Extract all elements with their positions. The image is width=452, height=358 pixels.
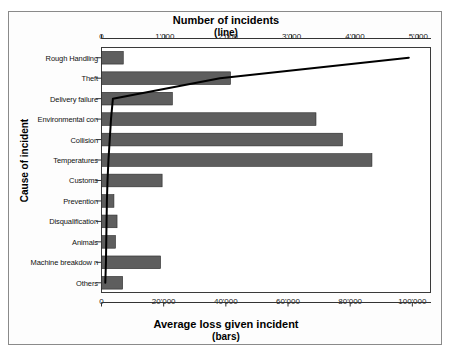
chart-figure: Number of incidents (line) Average loss … [0, 0, 452, 358]
bar [102, 51, 124, 64]
bar [102, 113, 316, 126]
bar [102, 72, 231, 85]
bar [102, 215, 118, 228]
bar [102, 154, 372, 167]
incidents-line [105, 58, 409, 283]
bar [102, 256, 161, 269]
chart-canvas [0, 0, 452, 358]
bar [102, 174, 163, 187]
bar [102, 133, 343, 146]
bar [102, 236, 116, 249]
